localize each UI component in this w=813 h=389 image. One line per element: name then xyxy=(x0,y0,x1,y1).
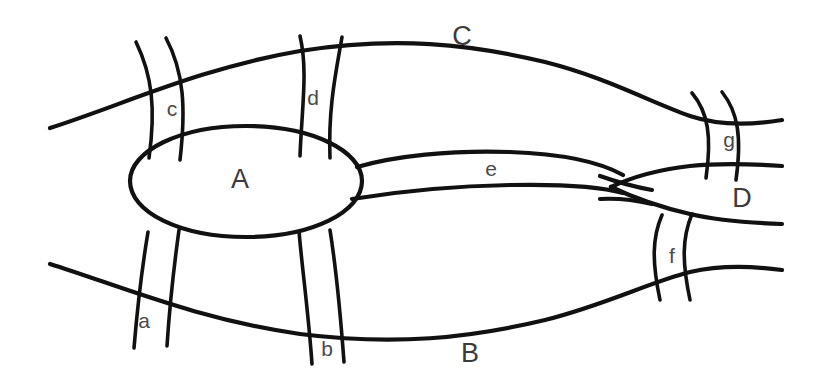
junction-fork-upper-arm xyxy=(611,164,782,187)
bridge-a-rail-right xyxy=(167,230,179,346)
bridge-label-c: c xyxy=(167,97,178,120)
region-boundary-c-upper xyxy=(50,43,782,128)
region-label-d: D xyxy=(732,183,752,213)
bridges-diagram: A B C D a b c d e f g xyxy=(0,0,813,389)
region-label-b: B xyxy=(461,338,479,368)
junction-fork-lower-arm xyxy=(611,187,782,224)
bridge-label-g: g xyxy=(723,128,735,151)
bridge-f-rail-left xyxy=(654,215,662,300)
region-boundaries xyxy=(50,43,782,340)
bridge-d-rail-right xyxy=(330,37,342,158)
bridge-label-a: a xyxy=(138,309,150,332)
bridge-f-rail-right xyxy=(684,214,692,300)
bridge-label-b: b xyxy=(321,337,333,360)
bridge-label-e: e xyxy=(485,157,497,180)
channel-e-lower-edge xyxy=(352,185,623,199)
bridge-d-rail-left xyxy=(300,36,304,156)
region-label-c: C xyxy=(452,21,472,51)
bridge-label-f: f xyxy=(669,244,675,267)
region-boundary-b-lower xyxy=(50,264,782,340)
bridge-c-rail-left xyxy=(136,42,152,158)
bridge-b-rail-left xyxy=(299,231,312,364)
region-label-a: A xyxy=(231,164,249,194)
bridge-label-d: d xyxy=(307,86,319,109)
diagram-canvas: A B C D a b c d e f g xyxy=(0,0,813,389)
